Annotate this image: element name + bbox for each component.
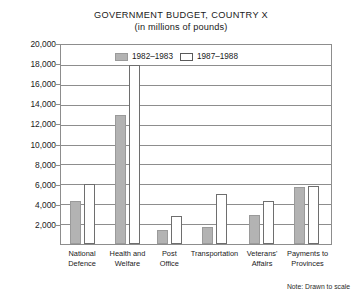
x-axis-label-line: Provinces	[283, 259, 332, 269]
bar	[157, 230, 168, 244]
y-axis-tick-label: 18,000	[4, 60, 56, 68]
legend-label: 1982–1983	[132, 53, 173, 61]
x-axis-label-line: National	[60, 249, 104, 259]
budget-bar-chart-figure: GOVERNMENT BUDGET, COUNTRY X (in million…	[0, 0, 362, 301]
x-axis-label-line: Affairs	[241, 259, 283, 269]
chart-title: GOVERNMENT BUDGET, COUNTRY X	[0, 9, 362, 21]
bar-group	[61, 45, 105, 244]
plot-area	[60, 44, 332, 245]
legend-item: 1982–1983	[115, 53, 173, 61]
x-axis-label-line: Veterans'	[241, 249, 283, 259]
y-axis-tick-label: 16,000	[4, 80, 56, 88]
y-axis-tick-label: 4,000	[4, 201, 56, 209]
y-axis-tick-label: 20,000	[4, 40, 56, 48]
y-axis-tick-label: 10,000	[4, 141, 56, 149]
y-axis-tick-label: 6,000	[4, 181, 56, 189]
bar	[263, 201, 274, 244]
x-axis-category-label: Transportation	[188, 249, 241, 268]
bar	[129, 65, 140, 244]
filled-gray-swatch	[115, 53, 128, 61]
bar	[216, 194, 227, 244]
x-axis-label-line: Post	[151, 249, 188, 259]
x-axis-label-line: Health and	[104, 249, 151, 259]
x-axis-labels: NationalDefenceHealth andWelfarePostOffi…	[60, 249, 332, 268]
bar-group	[151, 45, 188, 244]
y-axis-tick-label: 14,000	[4, 100, 56, 108]
bar	[70, 201, 81, 244]
chart-legend: 1982–19831987–1988	[115, 53, 238, 61]
legend-label: 1987–1988	[197, 53, 238, 61]
bar	[84, 184, 95, 244]
legend-item: 1987–1988	[180, 53, 238, 61]
chart-subtitle: (in millions of pounds)	[0, 21, 362, 33]
bar	[202, 227, 213, 244]
bar-group	[241, 45, 283, 244]
y-axis-tick-label: 8,000	[4, 161, 56, 169]
bar	[249, 215, 260, 244]
x-axis-label-line: Payments to	[283, 249, 332, 259]
y-axis-tick-label: 12,000	[4, 120, 56, 128]
x-axis-label-line: Defence	[60, 259, 104, 269]
outlined-white-swatch	[180, 53, 193, 61]
bar	[294, 187, 305, 244]
bar-group	[105, 45, 151, 244]
chart-title-block: GOVERNMENT BUDGET, COUNTRY X (in million…	[0, 9, 362, 33]
x-axis-category-label: Veterans'Affairs	[241, 249, 283, 268]
bar-group	[188, 45, 241, 244]
bar-groups	[61, 45, 331, 244]
x-axis-category-label: Health andWelfare	[104, 249, 151, 268]
bar	[115, 115, 126, 244]
x-axis-label-line: Office	[151, 259, 188, 269]
x-axis-category-label: Payments toProvinces	[283, 249, 332, 268]
x-axis-label-line: Welfare	[104, 259, 151, 269]
bar-group	[282, 45, 331, 244]
x-axis-category-label: PostOffice	[151, 249, 188, 268]
x-axis-label-line: Transportation	[188, 249, 241, 259]
chart-note: Note: Drawn to scale	[287, 283, 350, 290]
bar	[171, 216, 182, 244]
y-axis-tick-label: 2,000	[4, 221, 56, 229]
bar	[308, 186, 319, 244]
x-axis-category-label: NationalDefence	[60, 249, 104, 268]
